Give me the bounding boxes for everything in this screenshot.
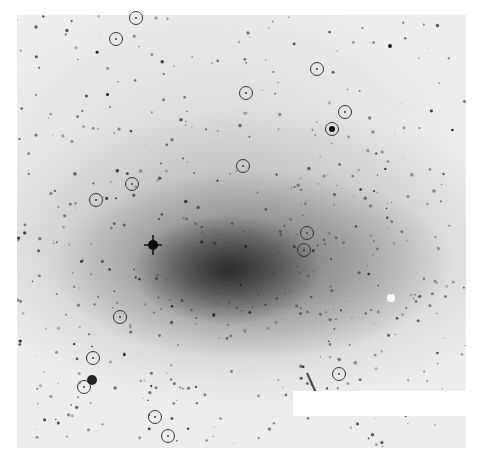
source-marker-circle	[113, 310, 127, 324]
source-marker-circle	[125, 177, 139, 191]
source-marker-circle	[338, 105, 352, 119]
source-marker-circle	[239, 86, 253, 100]
redaction-bar	[293, 391, 466, 416]
source-marker-circle	[297, 243, 311, 257]
source-marker-circle	[310, 62, 324, 76]
source-marker-circle	[86, 351, 100, 365]
source-marker-circle	[161, 429, 175, 443]
cropped-caption-text	[0, 0, 479, 6]
source-marker-circle	[109, 32, 123, 46]
source-marker-circle	[325, 122, 339, 136]
source-marker-circle	[332, 367, 346, 381]
source-marker-circle	[89, 193, 103, 207]
source-marker-circle	[129, 11, 143, 25]
source-marker-circle	[236, 159, 250, 173]
source-marker-circle	[77, 380, 91, 394]
source-marker-circle	[300, 226, 314, 240]
source-marker-circle	[148, 410, 162, 424]
